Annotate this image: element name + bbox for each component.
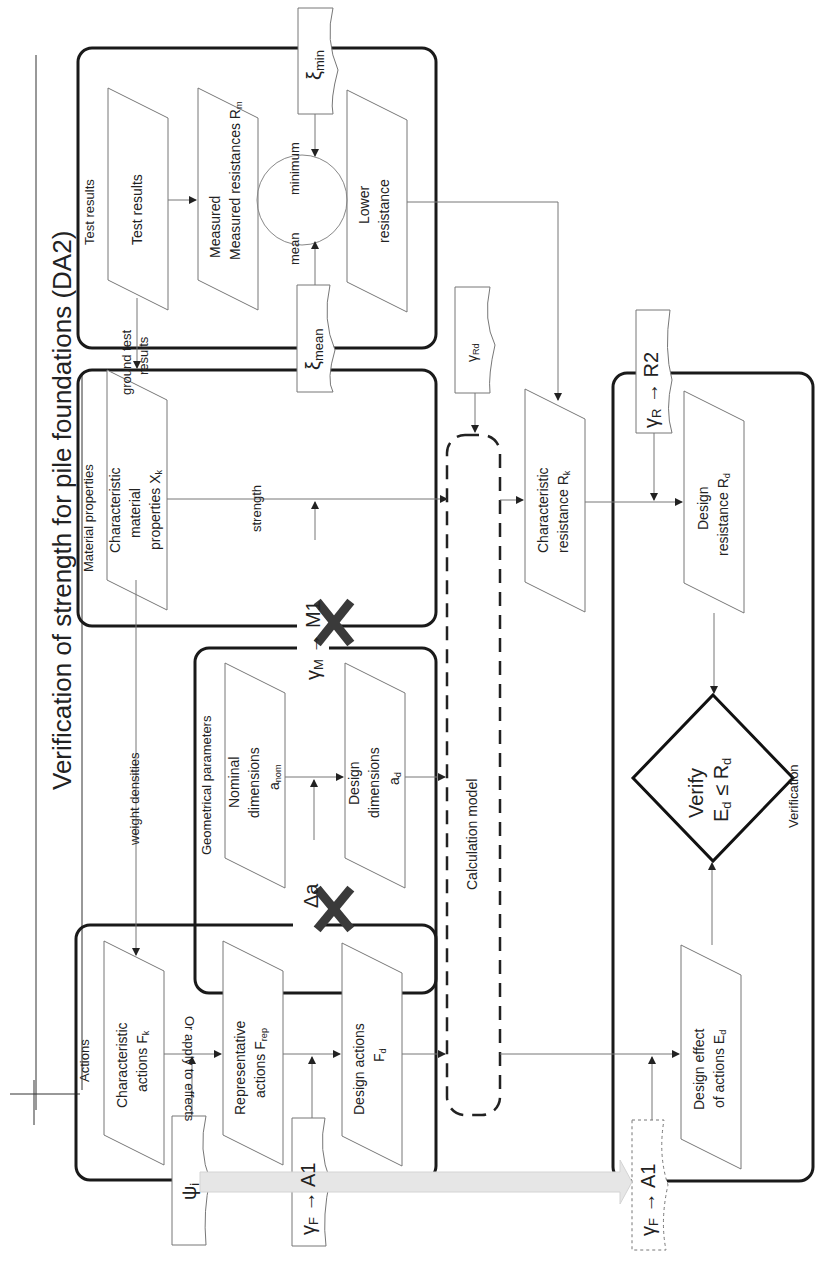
factor-gamma-f: γF → A1 (297, 1163, 322, 1235)
node-char-material-line3: properties Xk (148, 470, 164, 550)
factor-gamma-r: γR → R2 (640, 352, 665, 428)
factor-gamma-rd: γRd (465, 343, 481, 362)
node-design-dims-line1: Design (347, 761, 362, 805)
node-calculation-model: Calculation model (465, 779, 480, 890)
edge-label-minimum: minimum (288, 142, 302, 195)
factor-gamma-rd-shape (455, 287, 495, 393)
node-char-material-line1: Characteristic (108, 467, 123, 553)
factor-delta-a: Δa (300, 884, 322, 908)
edge-label-ground-test-1: ground test (120, 330, 134, 395)
edge-label-weight-densities: weight densities (128, 753, 142, 846)
or-apply-to-effects-arrow (200, 1160, 632, 1204)
node-test-results: Test results (130, 174, 145, 245)
calculation-model-box (447, 435, 500, 1115)
node-design-effect-line2: of actions Ed (712, 1030, 728, 1108)
factor-gamma-f2: γF → A1 (637, 1164, 662, 1236)
node-design-actions-line2: Fd (372, 1048, 388, 1062)
node-verify-line2: Ed ≤ Rd (710, 758, 735, 822)
node-design-resistance-shape (684, 391, 744, 613)
node-char-resistance-line2: resistance Rk (556, 471, 572, 553)
node-char-actions-line2: actions Fk (135, 1031, 151, 1092)
factor-xi-min: ξmin (303, 50, 328, 80)
node-design-resistance-line2: resistance Rd (716, 473, 732, 556)
node-nominal-dims-line2: dimensions (247, 747, 262, 818)
node-char-resistance-line1: Characteristic (536, 467, 551, 553)
node-design-resistance-line1: Design (696, 486, 711, 530)
edge-label-strength: strength (250, 485, 264, 532)
edge-label-mean: mean (288, 232, 302, 265)
factor-xi-mean: ξmean (302, 329, 327, 371)
factor-psi: ψi (178, 1183, 203, 1200)
edge-label-or-apply-to-effects: Or apply to effects (182, 1016, 196, 1121)
node-rep-actions-line2: actions Frep (253, 1028, 269, 1098)
node-rep-actions-line1: Representative (233, 1021, 248, 1115)
node-char-material-line2: material (128, 488, 143, 538)
node-verify-line1: Verify (685, 768, 707, 818)
node-char-actions-line1: Characteristic (115, 1022, 130, 1108)
node-nominal-dims-line3: anom (267, 765, 283, 791)
node-lower-resistance-line1: Lower (357, 186, 372, 224)
node-design-actions-line1: Design actions (352, 1023, 367, 1115)
edge-label-ground-test-2: results (137, 337, 151, 375)
diagram-title: Verification of strength for pile founda… (48, 231, 77, 790)
group-label-verification: Verification (787, 764, 801, 828)
node-design-effect-line1: Design effect (692, 1029, 707, 1110)
node-nominal-dims-line1: Nominal (227, 757, 242, 808)
group-label-geometrical-parameters: Geometrical parameters (200, 716, 214, 855)
node-lower-resistance-line2: resistance (377, 179, 392, 243)
node-design-dims-line3: ad (387, 772, 403, 785)
node-measured-resistances-line2: Measured resistances Rm (228, 101, 244, 260)
group-label-material-properties: Material properties (82, 464, 96, 572)
group-label-actions: Actions (78, 1039, 92, 1082)
node-measured-resistances: Measured (208, 196, 223, 258)
factor-gamma-m: γM → M1 (302, 600, 327, 680)
group-label-test-results: Test results (83, 179, 97, 245)
node-design-dims-line2: dimensions (367, 747, 382, 818)
